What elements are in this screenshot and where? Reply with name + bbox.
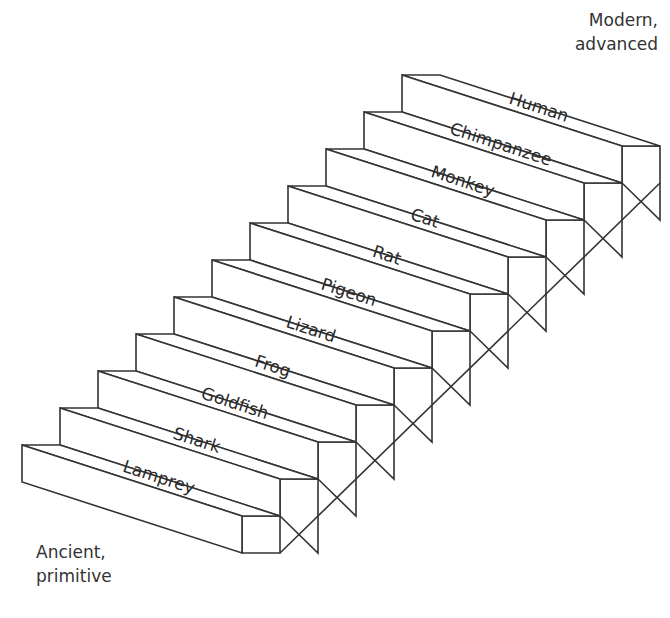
step-side-face — [242, 516, 280, 553]
step-side-face — [356, 405, 394, 479]
step-side-face — [470, 294, 508, 368]
step-side-face — [546, 220, 584, 294]
step-side-face — [432, 331, 470, 405]
step-side-face — [584, 183, 622, 257]
step-side-face — [318, 442, 356, 516]
step-side-face — [622, 146, 660, 220]
step-side-face — [394, 368, 432, 442]
staircase-diagram: LampreySharkGoldfishFrogLizardPigeonRatC… — [0, 0, 670, 618]
step-side-face — [508, 257, 546, 331]
step-side-face — [280, 479, 318, 553]
